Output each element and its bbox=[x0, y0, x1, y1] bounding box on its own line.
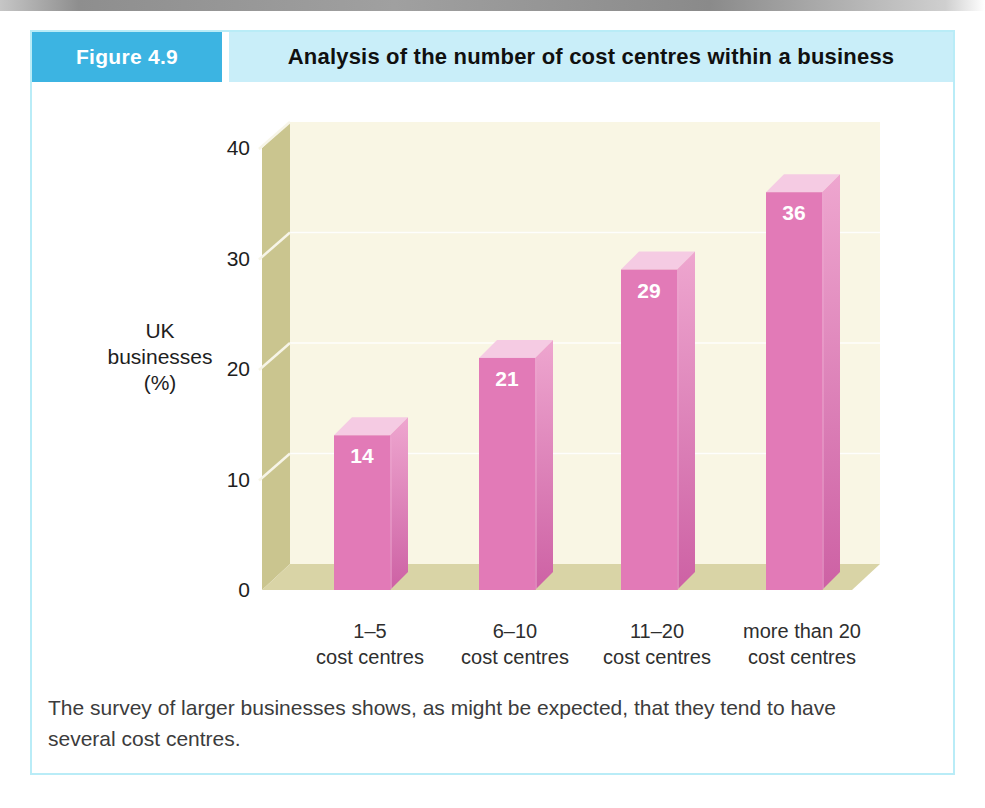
figure-header: Figure 4.9 Analysis of the number of cos… bbox=[32, 32, 953, 82]
figure-panel: Figure 4.9 Analysis of the number of cos… bbox=[30, 30, 955, 775]
page: { "page": { "figure_label": "Figure 4.9"… bbox=[0, 0, 985, 808]
figure-caption: The survey of larger businesses shows, a… bbox=[48, 692, 928, 754]
caption-line-2: several cost centres. bbox=[48, 723, 928, 754]
figure-title: Analysis of the number of cost centres w… bbox=[288, 44, 895, 70]
figure-label-block: Figure 4.9 bbox=[32, 32, 222, 82]
caption-line-1: The survey of larger businesses shows, a… bbox=[48, 692, 928, 723]
header-gap bbox=[222, 32, 229, 82]
page-scan-edge bbox=[0, 0, 985, 11]
figure-label: Figure 4.9 bbox=[76, 45, 178, 69]
figure-title-strip: Analysis of the number of cost centres w… bbox=[229, 32, 953, 82]
